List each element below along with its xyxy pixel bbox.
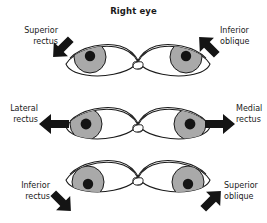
eye-graphic xyxy=(132,105,212,145)
direction-arrow-left xyxy=(38,111,70,137)
panel-medial-rectus: Medial rectus xyxy=(112,97,245,159)
panel-inferior-oblique: Inferior oblique xyxy=(112,32,245,94)
direction-arrow-right xyxy=(204,111,236,137)
label-line-1: Superior xyxy=(0,26,58,37)
label-line-1: Medial xyxy=(236,104,267,115)
label-medial-rectus: Medial rectus xyxy=(236,104,267,125)
iris xyxy=(74,41,106,73)
pupil xyxy=(85,51,95,61)
direction-arrow-down-left xyxy=(46,186,76,216)
label-inferior-oblique: Inferior oblique xyxy=(220,26,267,47)
iris xyxy=(72,166,104,198)
label-lateral-rectus: Lateral rectus xyxy=(0,104,38,125)
pupil xyxy=(81,119,92,130)
figure-title: Right eye xyxy=(0,6,267,16)
eye-illustration-medial-rectus xyxy=(112,97,245,159)
lacrimal-caruncle xyxy=(133,178,143,185)
label-inferior-rectus: Inferior rectus xyxy=(0,181,50,202)
lacrimal-caruncle xyxy=(133,62,143,69)
pupil xyxy=(83,179,93,189)
label-line-2: oblique xyxy=(224,192,267,203)
label-line-1: Inferior xyxy=(220,26,267,37)
label-line-2: rectus xyxy=(0,115,38,126)
eye-muscle-actions-diagram: Right eye xyxy=(0,0,267,223)
label-line-2: oblique xyxy=(220,37,267,48)
pupil xyxy=(183,179,193,189)
direction-arrow-down-right xyxy=(196,186,226,216)
pupil xyxy=(181,51,191,61)
label-line-1: Inferior xyxy=(0,181,50,192)
label-line-2: rectus xyxy=(0,192,50,203)
label-line-1: Superior xyxy=(224,181,267,192)
pupil xyxy=(185,119,196,130)
label-superior-oblique: Superior oblique xyxy=(224,181,267,202)
lacrimal-caruncle xyxy=(133,125,143,132)
panel-superior-oblique: Superior oblique xyxy=(112,158,245,220)
label-line-1: Lateral xyxy=(0,104,38,115)
label-superior-rectus: Superior rectus xyxy=(0,26,58,47)
label-line-2: rectus xyxy=(0,37,58,48)
label-line-2: rectus xyxy=(236,115,267,126)
